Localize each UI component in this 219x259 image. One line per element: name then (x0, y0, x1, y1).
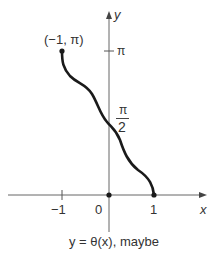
endpoint-1-0 (151, 192, 156, 197)
x-tick-1-label: 1 (150, 203, 157, 216)
y-tick-half-pi-denominator: 2 (118, 120, 126, 134)
x-tick-neg1-label: −1 (51, 203, 66, 216)
x-axis-arrow-icon (199, 192, 207, 198)
y-axis-label: y (114, 8, 121, 21)
x-tick-0-label: 0 (95, 203, 102, 216)
origin-point (106, 192, 111, 197)
theta-curve (62, 51, 154, 195)
y-axis-arrow-icon (106, 11, 112, 19)
y-tick-half-pi-numerator: π (119, 104, 127, 116)
caption: y = θ(x), maybe (69, 235, 159, 248)
function-graph: y (−1, π) π π 2 −1 0 1 x y = θ(x), maybe (0, 0, 219, 259)
graph-canvas (0, 0, 219, 259)
x-axis-label: x (200, 203, 207, 216)
point-label: (−1, π) (44, 33, 84, 46)
y-tick-pi-label: π (117, 45, 125, 57)
endpoint-neg1-pi (59, 48, 64, 53)
